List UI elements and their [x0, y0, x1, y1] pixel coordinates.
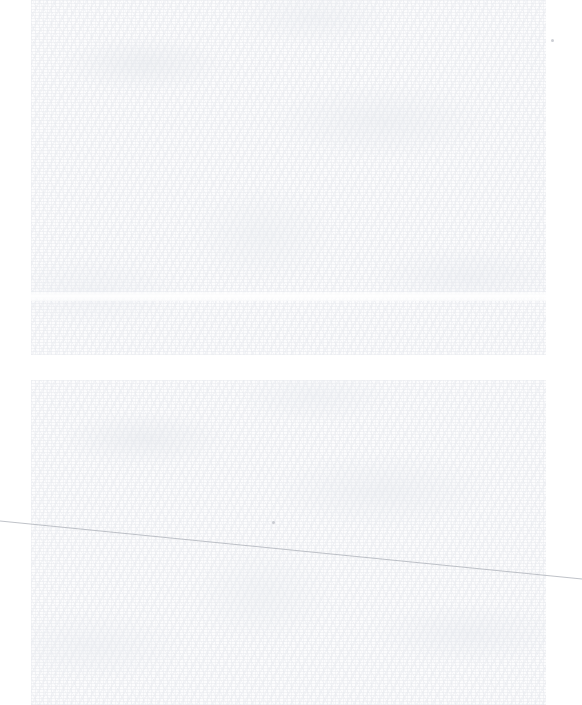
dust-speck-2	[272, 521, 275, 524]
scanned-document-page	[0, 0, 582, 705]
right-margin	[546, 0, 582, 705]
lower-scan-block	[31, 380, 546, 705]
page-separator-gap	[0, 355, 582, 380]
dust-speck-1	[551, 39, 554, 42]
left-margin	[0, 0, 31, 705]
upper-scan-block	[31, 0, 546, 355]
